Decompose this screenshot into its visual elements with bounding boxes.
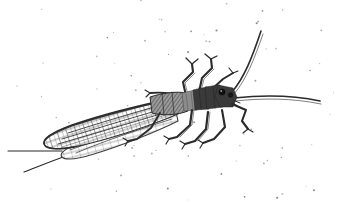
stipple-dot xyxy=(114,63,115,64)
stipple-dot xyxy=(329,114,330,115)
illustration-canvas xyxy=(0,0,341,203)
stipple-dot xyxy=(164,31,166,33)
eye-right-icon xyxy=(228,93,233,98)
stipple-dot xyxy=(127,105,129,107)
eye-left-icon xyxy=(219,89,225,95)
stipple-dot xyxy=(275,48,277,50)
stipple-dot xyxy=(263,163,265,165)
stipple-dot xyxy=(151,153,153,155)
stipple-dot xyxy=(68,122,70,124)
stipple-dot xyxy=(167,188,169,190)
stipple-dot xyxy=(135,89,137,91)
stipple-dot xyxy=(16,85,17,86)
stipple-dot xyxy=(254,80,256,82)
stipple-dot xyxy=(96,88,98,90)
eye-highlight xyxy=(220,90,222,92)
stipple-dot xyxy=(257,21,259,23)
stipple-dot xyxy=(205,40,207,42)
stipple-dot xyxy=(140,82,141,83)
stipple-dot xyxy=(267,160,268,161)
stipple-dot xyxy=(55,117,57,119)
stipple-dot xyxy=(209,41,211,43)
stipple-dot xyxy=(96,55,98,57)
stipple-dot xyxy=(133,145,134,146)
stipple-dot xyxy=(41,9,42,10)
stipple-dot xyxy=(188,155,190,157)
stipple-dot xyxy=(281,147,282,148)
stipple-dot xyxy=(131,147,133,149)
stipple-dot xyxy=(262,10,264,12)
stipple-dot xyxy=(226,3,228,5)
stipple-dot xyxy=(155,150,156,151)
stipple-dot xyxy=(41,96,42,97)
stipple-dot xyxy=(256,22,258,24)
stipple-dot xyxy=(133,155,135,157)
stipple-dot xyxy=(193,121,195,123)
stipple-dot xyxy=(120,175,122,177)
stipple-dot xyxy=(265,48,266,49)
stipple-dot xyxy=(140,0,141,1)
stipple-dot xyxy=(42,62,44,64)
stipple-dot xyxy=(281,193,283,195)
stipple-dot xyxy=(161,19,163,21)
stipple-dot xyxy=(98,158,100,160)
stipple-dot xyxy=(276,197,278,199)
stipple-dot xyxy=(320,29,322,31)
stipple-dot xyxy=(187,51,189,53)
stipple-dot xyxy=(243,133,244,134)
stipple-dot xyxy=(215,29,217,31)
stipple-dot xyxy=(236,161,237,162)
stipple-dot xyxy=(282,9,283,10)
stipple-dot xyxy=(333,92,334,93)
stonefly-illustration xyxy=(0,0,341,203)
stipple-dot xyxy=(168,54,169,55)
stipple-dot xyxy=(113,32,114,33)
stipple-dot xyxy=(144,40,146,42)
stipple-dot xyxy=(106,37,108,39)
stipple-dot xyxy=(159,19,160,20)
stipple-dot xyxy=(306,186,307,187)
stipple-dot xyxy=(239,145,241,147)
stipple-dot xyxy=(244,196,246,198)
stipple-dot xyxy=(250,129,251,130)
stipple-dot xyxy=(203,34,204,35)
stipple-dot xyxy=(130,75,132,77)
stipple-dot xyxy=(187,199,188,200)
stipple-dot xyxy=(311,144,312,145)
stipple-dot xyxy=(220,173,222,175)
stipple-dot xyxy=(281,157,282,158)
stipple-dot xyxy=(116,191,117,192)
stipple-dot xyxy=(319,63,320,64)
stipple-dot xyxy=(313,189,315,191)
stipple-dot xyxy=(190,30,192,32)
stipple-dot xyxy=(309,70,311,72)
stipple-dot xyxy=(50,188,51,189)
